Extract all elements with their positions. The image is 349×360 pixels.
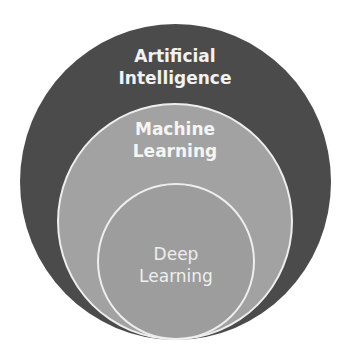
label-line-2: Learning [75,140,275,162]
label-line-1: Deep [76,243,276,265]
artificial-intelligence-label: Artificial Intelligence [75,45,275,89]
label-line-1: Machine [75,118,275,140]
machine-learning-label: Machine Learning [75,118,275,162]
label-line-1: Artificial [75,45,275,67]
label-line-2: Learning [76,265,276,287]
label-line-2: Intelligence [75,67,275,89]
deep-learning-label: Deep Learning [76,243,276,287]
